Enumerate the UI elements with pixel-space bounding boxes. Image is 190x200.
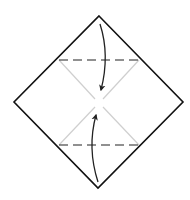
fold-arrows xyxy=(92,24,105,182)
origami-diagram xyxy=(0,0,190,200)
crease-lower-right xyxy=(103,107,139,145)
paper-outline xyxy=(14,16,183,188)
crease-lines xyxy=(59,60,139,145)
crease-upper-right xyxy=(103,60,139,99)
origami-diagram-svg xyxy=(0,0,190,200)
fold-top-down-arrow xyxy=(100,24,105,90)
crease-upper-left xyxy=(59,60,95,99)
crease-lower-left xyxy=(59,107,95,145)
fold-bottom-up-arrow xyxy=(92,115,98,182)
